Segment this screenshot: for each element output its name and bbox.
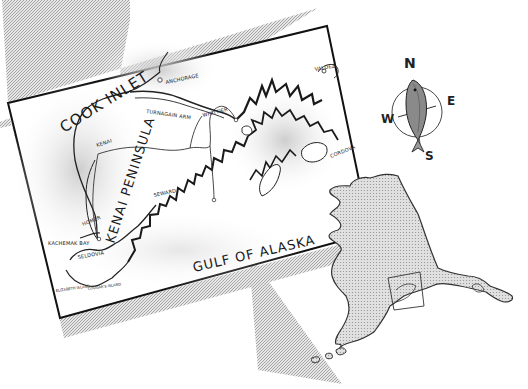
compass-north: N [404, 55, 416, 71]
alaska-locator-inset [311, 174, 512, 362]
compass-west: W [381, 112, 394, 126]
fish-compass-rose-icon: N E S W [381, 55, 455, 163]
compass-east: E [447, 94, 455, 108]
illustrated-map: COOK INLET KENAI PENINSULA GULF OF ALASK… [0, 0, 528, 389]
compass-south: S [425, 149, 434, 163]
label-kachemak-bay: KACHEMAK BAY [48, 240, 90, 246]
